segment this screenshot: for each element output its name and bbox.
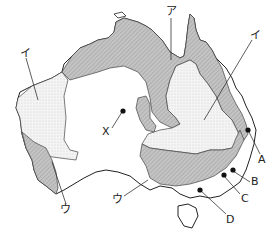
label-A: A	[258, 154, 266, 165]
point-x	[120, 108, 125, 113]
label-x: X	[102, 126, 110, 137]
label-C: C	[241, 193, 249, 204]
label-B: B	[251, 176, 259, 187]
label-i-east: イ	[250, 30, 261, 41]
leader-u-south	[124, 180, 148, 196]
point-B	[230, 167, 235, 172]
label-a-north: ア	[166, 6, 177, 17]
tasmania	[178, 204, 198, 228]
label-D: D	[226, 214, 234, 225]
label-u-south: ウ	[112, 194, 123, 205]
label-i-west: イ	[20, 48, 31, 59]
point-C	[221, 172, 226, 177]
point-D	[197, 187, 202, 192]
point-A	[245, 127, 250, 132]
label-u-west: ウ	[60, 204, 71, 215]
tiwi-island	[114, 12, 126, 18]
australia-map	[0, 0, 280, 244]
